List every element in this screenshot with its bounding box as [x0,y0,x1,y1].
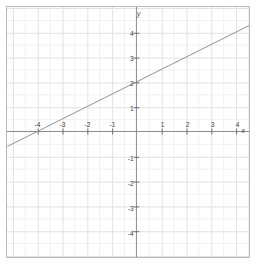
x-tick-label: 3 [211,121,215,128]
x-tick-label: -4 [35,121,41,128]
x-tick-label: 4 [236,121,240,128]
y-tick-label: -1 [128,154,134,161]
x-tick-label: -1 [110,121,116,128]
function-line [7,25,249,146]
function-line-layer [7,7,249,257]
y-tick-label: -3 [128,204,134,211]
y-axis-label: y [137,10,140,17]
x-axis-label: x [241,126,244,133]
y-tick-label: 2 [130,79,134,86]
x-tick-label: -2 [85,121,91,128]
y-tick-label: -2 [128,179,134,186]
y-tick-label: -4 [128,229,134,236]
y-tick-label: 4 [130,29,134,36]
coordinate-graph: -4-3-2-112344321-1-2-3-4 x y [0,0,258,273]
y-tick-label: 1 [130,104,134,111]
x-tick-label: 1 [161,121,165,128]
plot-frame: -4-3-2-112344321-1-2-3-4 x y [6,6,250,258]
y-tick-label: 3 [130,54,134,61]
x-tick-label: 2 [186,121,190,128]
x-tick-label: -3 [60,121,66,128]
